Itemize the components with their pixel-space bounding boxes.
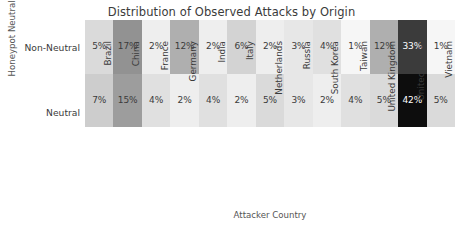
x-tick-label: Russia: [302, 41, 312, 131]
x-tick-label: Netherlands: [274, 41, 284, 131]
x-tick-label: Brazil: [103, 41, 113, 131]
x-tick-label: China: [131, 41, 141, 131]
x-tick-label: India: [217, 41, 227, 131]
chart-title: Distribution of Observed Attacks by Orig…: [0, 5, 463, 19]
x-tick-label: South Korea: [330, 41, 340, 131]
x-tick-label: Taiwan: [359, 41, 369, 131]
y-tick-label-non-neutral: Non-Neutral: [0, 42, 80, 53]
heatmap-figure: Distribution of Observed Attacks by Orig…: [0, 0, 463, 236]
x-axis-label: Attacker Country: [80, 210, 460, 220]
x-tick-label: France: [160, 41, 170, 131]
x-tick-label: United Kingdom: [387, 41, 397, 131]
x-tick-label: Vietnam: [444, 41, 454, 131]
x-tick-label: United States: [416, 41, 426, 131]
x-tick-label: Italy: [245, 41, 255, 131]
y-tick-label-neutral: Neutral: [0, 107, 80, 118]
x-tick-label: Germany: [188, 41, 198, 131]
